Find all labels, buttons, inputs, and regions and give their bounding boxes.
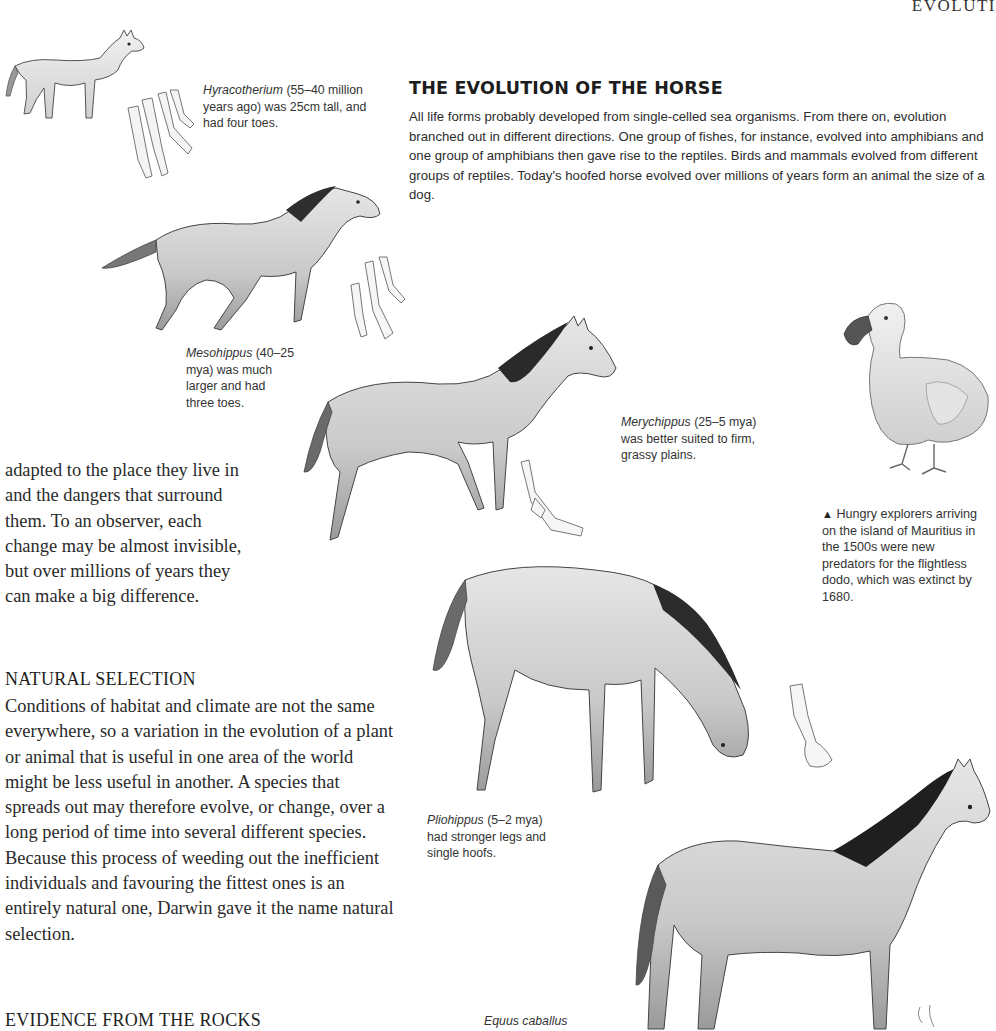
dodo-illustration bbox=[838, 296, 990, 476]
caption-pliohippus: Pliohippus (5–2 mya) had stronger legs a… bbox=[427, 812, 557, 862]
body-paragraph-1: adapted to the place they live in and th… bbox=[5, 458, 250, 610]
equus-illustration bbox=[618, 755, 990, 1029]
caption-merychippus: Merychippus (25–5 mya) was better suited… bbox=[621, 414, 771, 464]
species-name: Hyracotherium bbox=[203, 83, 283, 97]
merychippus-foot-icon bbox=[515, 458, 595, 538]
running-head: EVOLUTI bbox=[912, 0, 996, 16]
species-name: Mesohippus bbox=[186, 346, 252, 360]
species-name: Merychippus bbox=[621, 415, 691, 429]
caption-text: Hungry explorers arriving on the island … bbox=[822, 507, 977, 604]
caption-mesohippus: Mesohippus (40–25 mya) was much larger a… bbox=[186, 345, 296, 411]
hyracotherium-foot-icon bbox=[124, 88, 204, 183]
equus-foot-icon bbox=[912, 1005, 942, 1029]
triangle-marker-icon: ▲ bbox=[822, 508, 833, 520]
caption-dodo: ▲ Hungry explorers arriving on the islan… bbox=[822, 506, 990, 606]
body-paragraph-2: Conditions of habitat and climate are no… bbox=[5, 694, 397, 947]
species-name: Pliohippus bbox=[427, 813, 484, 827]
caption-equus: Equus caballus bbox=[484, 1013, 614, 1030]
section-heading-natural-selection: NATURAL SELECTION bbox=[5, 669, 196, 690]
caption-hyracotherium: Hyracotherium (55–40 million years ago) … bbox=[203, 82, 368, 132]
feature-intro: All life forms probably developed from s… bbox=[409, 107, 989, 205]
section-heading-evidence-from-the-rocks: EVIDENCE FROM THE ROCKS bbox=[5, 1010, 261, 1031]
feature-title: THE EVOLUTION OF THE HORSE bbox=[409, 78, 723, 98]
species-name: Equus caballus bbox=[484, 1014, 567, 1028]
